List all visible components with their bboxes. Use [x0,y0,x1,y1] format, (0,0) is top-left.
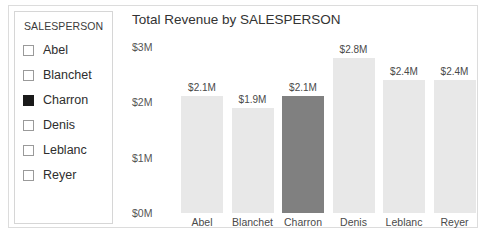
slicer-item-denis[interactable]: Denis [23,113,111,138]
bar-value-label: $2.4M [441,66,469,77]
bar-value-label: $2.1M [289,82,317,93]
salesperson-slicer-panel[interactable]: SALESPERSON AbelBlanchetCharronDenisLebl… [14,11,113,224]
bar-group-blanchet[interactable]: $1.9MBlanchet [232,108,274,213]
bar-group-reyer[interactable]: $2.4MReyer [434,80,476,213]
report-canvas: SALESPERSON AbelBlanchetCharronDenisLebl… [0,0,485,237]
x-axis-category-label: Reyer [440,216,468,228]
bar-value-label: $1.9M [239,94,267,105]
slicer-item-reyer[interactable]: Reyer [23,163,111,188]
x-axis-category-label: Charron [284,216,322,228]
slicer-item-label: Denis [43,119,75,132]
checkbox-unchecked-icon[interactable] [23,170,34,181]
slicer-item-label: Abel [43,44,68,57]
checkbox-unchecked-icon[interactable] [23,145,34,156]
bar-group-leblanc[interactable]: $2.4MLeblanc [383,80,425,213]
slicer-header-label: SALESPERSON [24,20,103,32]
slicer-item-blanchet[interactable]: Blanchet [23,63,111,88]
bar-group-charron[interactable]: $2.1MCharron [282,96,324,213]
x-axis-category-label: Abel [191,216,212,228]
slicer-item-charron[interactable]: Charron [23,88,111,113]
bar-denis[interactable] [333,58,375,213]
checkbox-unchecked-icon[interactable] [23,120,34,131]
bar-charron[interactable] [282,96,324,213]
bar-value-label: $2.4M [390,66,418,77]
slicer-item-label: Reyer [43,169,76,182]
x-axis-category-label: Denis [340,216,367,228]
checkbox-checked-icon[interactable] [23,95,34,106]
bar-group-abel[interactable]: $2.1MAbel [181,96,223,213]
slicer-item-label: Charron [43,94,88,107]
bar-leblanc[interactable] [383,80,425,213]
revenue-bar-chart[interactable]: Total Revenue by SALESPERSON $3M$2M$1M$0… [122,6,477,227]
checkbox-unchecked-icon[interactable] [23,70,34,81]
checkbox-unchecked-icon[interactable] [23,45,34,56]
bar-value-label: $2.1M [188,82,216,93]
x-axis-category-label: Blanchet [232,216,273,228]
slicer-item-label: Blanchet [43,69,92,82]
bars-layer: $2.1MAbel$1.9MBlanchet$2.1MCharron$2.8MD… [122,36,477,227]
bar-reyer[interactable] [434,80,476,213]
slicer-item-label: Leblanc [43,144,87,157]
bar-abel[interactable] [181,96,223,213]
bar-group-denis[interactable]: $2.8MDenis [333,58,375,213]
bar-blanchet[interactable] [232,108,274,213]
slicer-item-leblanc[interactable]: Leblanc [23,138,111,163]
chart-plot-area: $3M$2M$1M$0M $2.1MAbel$1.9MBlanchet$2.1M… [122,36,477,227]
x-axis-category-label: Leblanc [386,216,423,228]
slicer-item-list: AbelBlanchetCharronDenisLeblancReyer [23,38,111,188]
slicer-item-abel[interactable]: Abel [23,38,111,63]
chart-title: Total Revenue by SALESPERSON [132,12,341,27]
bar-value-label: $2.8M [340,44,368,55]
